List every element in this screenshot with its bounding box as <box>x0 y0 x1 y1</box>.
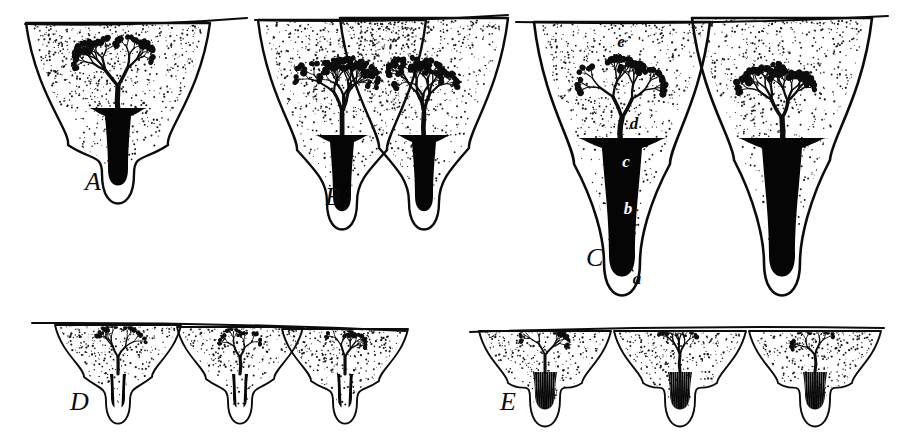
striated-duct <box>669 371 692 410</box>
panels-layer <box>25 15 888 427</box>
striated-duct <box>804 371 827 410</box>
duct-bars <box>110 373 125 409</box>
panel-E <box>470 321 884 427</box>
duct-bars <box>337 373 352 409</box>
gland-lobe <box>613 321 746 427</box>
lobe-outline <box>282 329 408 424</box>
part-label-c: c <box>622 152 630 171</box>
duct-flare <box>397 135 451 142</box>
part-label-e: e <box>617 32 625 51</box>
panel-B <box>255 15 509 230</box>
panel-C <box>516 16 888 295</box>
gland-lobe <box>479 324 612 427</box>
duct-flare <box>89 108 148 116</box>
acinar-tree <box>216 325 262 374</box>
excretory-duct <box>412 142 436 211</box>
excretory-duct <box>105 116 131 186</box>
panel-label-d: D <box>69 387 89 416</box>
gland-lobe <box>25 22 211 203</box>
duct-flare <box>315 135 369 142</box>
figure-root: ABCDE abcde <box>0 0 904 446</box>
panel-label-c: C <box>586 243 604 272</box>
part-label-d: d <box>630 114 639 133</box>
striated-duct <box>534 371 557 410</box>
gland-lobe <box>257 19 427 229</box>
acinar-tree <box>323 325 368 374</box>
gland-lobe <box>691 17 873 295</box>
gland-lobe <box>339 17 509 229</box>
duct-bars <box>232 373 247 409</box>
gland-lobe <box>281 325 408 424</box>
part-label-b: b <box>624 199 633 218</box>
acinar-tree <box>291 55 382 142</box>
panel-label-b: B <box>325 182 341 211</box>
duct-flare <box>737 138 827 148</box>
gland-development-figure: ABCDE abcde <box>0 0 904 446</box>
excretory-duct <box>762 148 802 277</box>
panel-label-a: A <box>83 167 101 196</box>
gland-lobe <box>748 324 882 426</box>
panel-label-e: E <box>499 387 516 416</box>
part-label-a: a <box>633 269 642 288</box>
duct-flare <box>577 138 667 148</box>
panel-A <box>25 18 247 204</box>
